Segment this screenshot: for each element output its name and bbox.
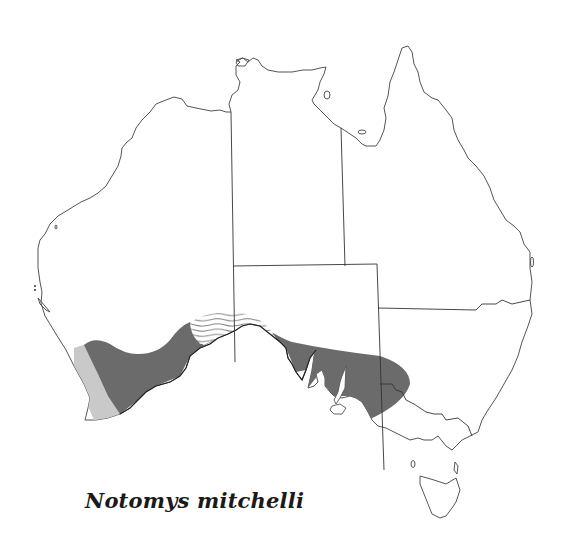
state-borders (231, 112, 530, 470)
kangaroo-island (330, 404, 346, 414)
abrolhos-islet-2 (34, 289, 36, 291)
groote-eylandt (324, 91, 330, 99)
mornington-island (358, 130, 366, 134)
abrolhos-islet (34, 285, 36, 287)
fraser-island (531, 257, 534, 267)
australia-map (0, 0, 565, 554)
barrow-island (55, 225, 57, 229)
species-name-label: Notomys mitchelli (85, 488, 304, 513)
flinders-island (454, 462, 458, 474)
king-island (411, 461, 415, 468)
shark-bay-island (38, 298, 50, 312)
tasmania (420, 476, 460, 518)
